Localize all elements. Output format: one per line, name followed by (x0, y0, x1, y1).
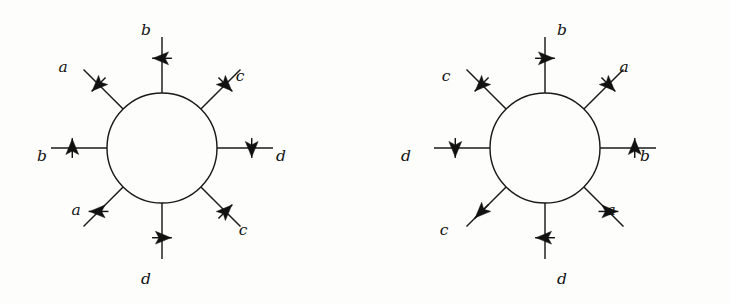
leg-l-top (152, 37, 172, 93)
edge-label-l-upleft: a (58, 58, 67, 76)
edge-label-l-dnright: c (239, 221, 248, 239)
leg-l-upleft (84, 70, 124, 110)
leg-r-top (535, 37, 555, 93)
leg-l-left (51, 138, 107, 158)
leg-r-bottom (535, 203, 555, 259)
leg-line-l-upleft (84, 70, 124, 110)
right-diagram-canvas: bcadbcad (365, 0, 730, 304)
vertex-diagram-figure: bacbdacd bcadbcad (0, 0, 730, 304)
edge-label-l-right: d (276, 147, 286, 165)
leg-l-dnleft (84, 187, 124, 227)
leg-r-left (434, 138, 490, 158)
edge-label-r-bottom: d (557, 270, 567, 288)
left-vertex-diagram: bacbdacd (0, 0, 365, 304)
leg-line-r-upleft (467, 70, 507, 110)
leg-r-dnright (584, 187, 624, 227)
edge-label-r-right: b (640, 147, 650, 165)
leg-l-upright (201, 70, 241, 110)
leg-r-upleft (467, 70, 507, 110)
leg-r-dnleft (467, 187, 507, 227)
leg-line-l-dnright (201, 187, 241, 227)
edge-label-r-top: b (557, 21, 567, 39)
leg-l-dnright (201, 187, 241, 227)
edge-label-l-upright: c (236, 67, 245, 85)
leg-l-bottom (152, 203, 172, 259)
edge-label-r-upleft: c (442, 67, 451, 85)
edge-label-r-left: d (401, 147, 411, 165)
edge-label-l-top: b (141, 21, 151, 39)
edge-label-r-upright: a (619, 58, 628, 76)
edge-label-l-dnleft: a (71, 201, 80, 219)
left-diagram-canvas: bacbdacd (0, 0, 365, 304)
leg-line-l-upright (201, 70, 241, 110)
right-vertex-diagram: bcadbcad (365, 0, 730, 304)
edge-label-r-dnleft: c (440, 221, 449, 239)
vertex-circle (490, 93, 600, 203)
leg-r-upright (584, 70, 624, 110)
leg-line-r-upright (584, 70, 624, 110)
leg-l-right (217, 138, 273, 158)
edge-label-r-dnright: a (606, 201, 615, 219)
vertex-circle (107, 93, 217, 203)
edge-label-l-left: b (37, 147, 47, 165)
edge-label-l-bottom: d (141, 270, 151, 288)
